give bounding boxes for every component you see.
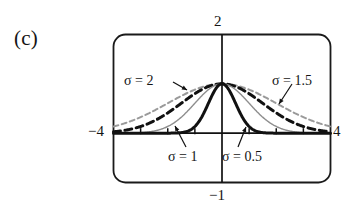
panel-label: (c) <box>14 26 38 51</box>
annotation-sigma-1_5: σ = 1.5 <box>272 74 312 88</box>
annotation-sigma-0_5: σ = 0.5 <box>222 150 262 164</box>
figure-panel-c: (c) 2 −1 −4 4 σ = 2 σ = 1.5 σ = 1 σ = 0.… <box>0 0 357 210</box>
plot-canvas <box>0 0 357 210</box>
x-min-label: −4 <box>88 124 104 139</box>
annotation-sigma-1: σ = 1 <box>168 150 197 164</box>
y-min-label: −1 <box>209 188 225 203</box>
annotation-sigma-2: σ = 2 <box>124 74 153 88</box>
y-max-label: 2 <box>214 14 222 29</box>
x-max-label: 4 <box>333 124 341 139</box>
